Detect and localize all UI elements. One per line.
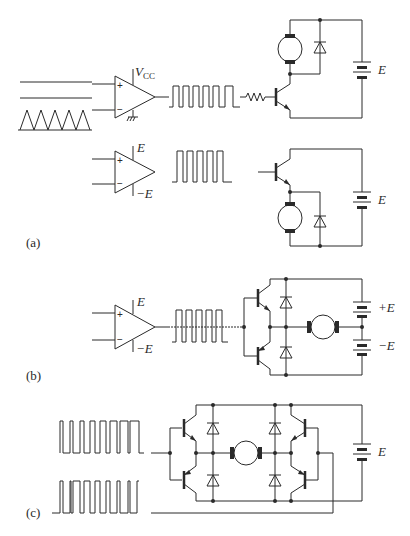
pwm-pulse-train [172,151,232,182]
npn-transistor [276,149,290,192]
supply-neg-label: −E [136,341,153,356]
battery-pos-label: +E [378,300,395,315]
dc-motor-icon [278,192,302,246]
comparator-a-bottom: + − E −E [92,140,155,201]
battery-label: E [377,444,386,459]
pwm-motor-drive-figure: + − V CC [0,0,410,536]
freewheel-diode-right-lower [269,453,281,501]
npn-transistor-left-upper [184,405,196,453]
pwm-pulse-train [172,310,228,342]
comparator-b: + − E −E [92,294,168,356]
battery-icon-positive [353,302,371,318]
supply-pos-label: E [136,140,145,155]
pwm-pulse-train-upper [60,421,144,453]
pnp-transistor-left-lower [184,453,196,501]
battery-icon [353,444,371,461]
junction-dot [284,325,288,329]
battery-icon-negative [353,340,371,356]
dc-motor-icon [307,315,339,339]
supply-neg-label: −E [136,186,153,201]
battery-label: E [377,192,386,207]
panel-c-circuit: E [52,403,386,513]
freewheel-diode [290,192,326,246]
comparator-a-top: + − V CC [92,64,169,121]
minus-sign: − [117,104,123,115]
panel-a-bottom-circuit: + − E −E [92,140,386,248]
panel-b-circuit: + − E −E [92,277,395,377]
freewheel-diode-left-lower [207,453,219,501]
pnp-transistor-lower [258,327,270,375]
base-resistor [240,93,276,101]
panel-a-top-circuit: + − V CC [18,18,386,130]
panel-label-b: (b) [26,368,41,383]
panel-label-a: (a) [26,235,40,250]
panel-label-c: (c) [26,505,40,520]
battery-icon [353,62,371,79]
plus-sign: + [117,309,123,320]
plus-sign: + [117,155,123,166]
minus-sign: − [117,334,123,345]
freewheel-diode-lower [280,327,292,375]
freewheel-diode [290,20,326,74]
plus-sign: + [117,80,123,91]
triangle-carrier-wave [20,110,90,130]
npn-transistor-upper [258,279,270,327]
freewheel-diode-upper [280,279,292,327]
pwm-pulse-train [169,86,240,107]
ground-icon [127,117,138,121]
npn-transistor [276,74,290,118]
supply-pos-label: E [136,294,145,309]
freewheel-diode-right-upper [269,405,281,453]
dc-motor-icon [230,441,262,465]
freewheel-diode-left-upper [207,405,219,453]
vcc-subscript: CC [143,71,155,81]
npn-transistor-right-upper [291,405,305,453]
pwm-pulse-train-lower [52,481,139,513]
battery-neg-label: −E [378,338,395,353]
battery-icon [353,192,371,209]
dc-motor-icon [278,20,302,74]
minus-sign: − [117,178,123,189]
pnp-transistor-right-lower [291,453,305,501]
battery-label: E [377,62,386,77]
